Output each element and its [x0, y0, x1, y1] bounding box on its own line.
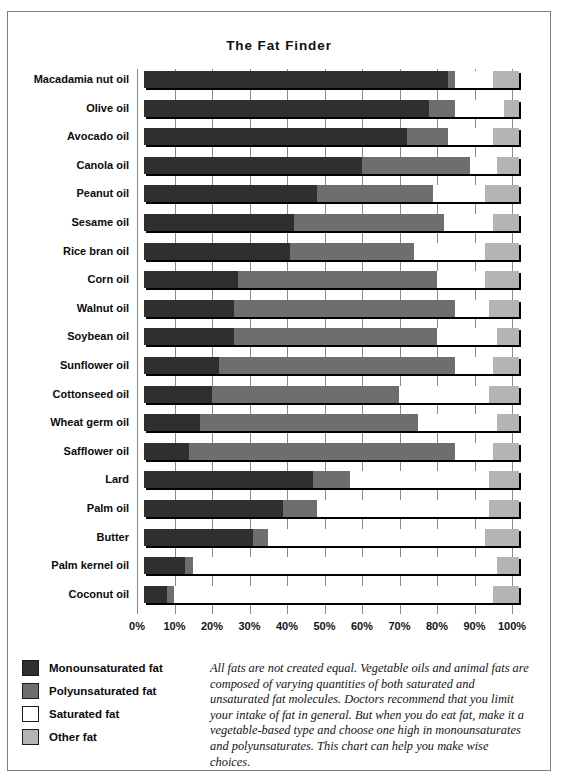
bar-row-label: Rice bran oil — [0, 241, 129, 262]
bar-segment — [268, 529, 486, 546]
bar-segment — [253, 529, 268, 546]
legend-item: Monounsaturated fat — [22, 656, 202, 679]
bar-row: Safflower oil — [137, 441, 512, 462]
legend-swatch — [22, 729, 39, 745]
bar-row-label: Cottonseed oil — [0, 384, 129, 405]
legend-item: Saturated fat — [22, 702, 202, 725]
bar-segment — [290, 243, 414, 260]
bar-segment — [448, 71, 456, 88]
bar-row-label: Sesame oil — [0, 212, 129, 233]
bar-segment — [144, 300, 234, 317]
bar-segment — [144, 529, 253, 546]
page-title: The Fat Finder — [8, 38, 550, 53]
bar-segment — [485, 243, 519, 260]
bar-segment — [418, 414, 497, 431]
x-tick-label: 60% — [351, 620, 373, 632]
bar-row: Wheat germ oil — [137, 412, 512, 433]
bar-segment — [497, 157, 520, 174]
bar-segment — [489, 500, 519, 517]
bar-row-label: Soybean oil — [0, 326, 129, 347]
bar-segment — [185, 557, 193, 574]
bar-row: Corn oil — [137, 269, 512, 290]
stacked-bar — [144, 100, 519, 117]
bar-segment — [455, 100, 504, 117]
bar-segment — [144, 128, 407, 145]
legend-label: Saturated fat — [49, 708, 119, 720]
x-tick-label: 0% — [129, 620, 145, 632]
x-axis: 0%10%20%30%40%50%60%70%80%90%100% — [130, 616, 519, 642]
bar-segment — [317, 185, 433, 202]
x-tick-label: 10% — [163, 620, 185, 632]
bar-segment — [493, 214, 519, 231]
bar-row: Macadamia nut oil — [137, 69, 512, 90]
bar-row-label: Canola oil — [0, 155, 129, 176]
bar-segment — [144, 357, 219, 374]
bar-segment — [144, 414, 200, 431]
legend-swatch — [22, 660, 39, 676]
bar-segment — [144, 100, 429, 117]
bar-segment — [414, 243, 485, 260]
stacked-bar — [144, 157, 519, 174]
stacked-bar — [144, 71, 519, 88]
bar-segment — [493, 357, 519, 374]
bar-segment — [144, 71, 448, 88]
stacked-bar — [144, 500, 519, 517]
bar-row: Canola oil — [137, 155, 512, 176]
chart-frame: The Fat Finder Macadamia nut oilOlive oi… — [7, 11, 551, 771]
bar-row-label: Corn oil — [0, 269, 129, 290]
bar-row: Peanut oil — [137, 183, 512, 204]
bar-segment — [485, 185, 519, 202]
bar-segment — [144, 471, 313, 488]
bar-segment — [455, 71, 493, 88]
bar-segment — [504, 100, 519, 117]
bar-row-label: Coconut oil — [0, 584, 129, 605]
bar-segment — [144, 157, 362, 174]
bar-segment — [283, 500, 317, 517]
bar-segment — [144, 500, 283, 517]
bar-segment — [455, 357, 493, 374]
bar-row: Olive oil — [137, 98, 512, 119]
bar-row: Sunflower oil — [137, 355, 512, 376]
bar-segment — [144, 586, 167, 603]
stacked-bar — [144, 386, 519, 403]
bar-row: Palm kernel oil — [137, 555, 512, 576]
legend-label: Polyunsaturated fat — [49, 685, 156, 697]
bar-segment — [362, 157, 471, 174]
bar-segment — [189, 443, 455, 460]
bar-segment — [313, 471, 351, 488]
bar-segment — [433, 185, 486, 202]
legend-label: Monounsaturated fat — [49, 662, 163, 674]
x-tick-label: 40% — [276, 620, 298, 632]
stacked-bar — [144, 529, 519, 546]
bar-row: Palm oil — [137, 498, 512, 519]
bar-segment — [193, 557, 497, 574]
bar-row-label: Peanut oil — [0, 183, 129, 204]
bar-row-label: Macadamia nut oil — [0, 69, 129, 90]
bar-segment — [238, 271, 437, 288]
stacked-bar — [144, 300, 519, 317]
bar-row: Coconut oil — [137, 584, 512, 605]
stacked-bar — [144, 185, 519, 202]
bar-segment — [448, 128, 493, 145]
legend-label: Other fat — [49, 731, 97, 743]
x-tick-label: 20% — [201, 620, 223, 632]
bar-segment — [144, 443, 189, 460]
bar-row: Cottonseed oil — [137, 384, 512, 405]
bar-segment — [174, 586, 493, 603]
stacked-bar — [144, 243, 519, 260]
x-tick-label: 70% — [388, 620, 410, 632]
bar-segment — [497, 414, 520, 431]
bar-segment — [144, 214, 294, 231]
bar-row: Avocado oil — [137, 126, 512, 147]
stacked-bar — [144, 214, 519, 231]
bar-row: Rice bran oil — [137, 241, 512, 262]
legend-item: Other fat — [22, 725, 202, 748]
bar-segment — [144, 185, 317, 202]
caption-text: All fats are not created equal. Vegetabl… — [210, 661, 530, 770]
bar-segment — [407, 128, 448, 145]
stacked-bar — [144, 328, 519, 345]
bar-segment — [489, 471, 519, 488]
bar-segment — [200, 414, 418, 431]
legend-item: Polyunsaturated fat — [22, 679, 202, 702]
legend-swatch — [22, 706, 39, 722]
